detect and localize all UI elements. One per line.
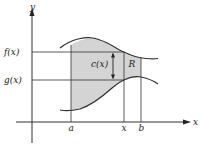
region-label: R bbox=[128, 59, 136, 69]
b-label: b bbox=[139, 123, 145, 133]
y-axis-label: y bbox=[29, 2, 36, 12]
x-axis-label: x bbox=[193, 117, 198, 127]
a-label: a bbox=[69, 123, 74, 133]
x-label: x bbox=[122, 123, 127, 133]
shaded-region bbox=[71, 39, 141, 111]
region-between-curves-diagram: y x f(x) g(x) a x b c(x) R bbox=[0, 0, 200, 145]
g-label: g(x) bbox=[4, 75, 22, 85]
cross-section-label: c(x) bbox=[91, 59, 109, 69]
f-label: f(x) bbox=[3, 47, 20, 57]
x-axis-arrow-icon bbox=[183, 120, 191, 125]
